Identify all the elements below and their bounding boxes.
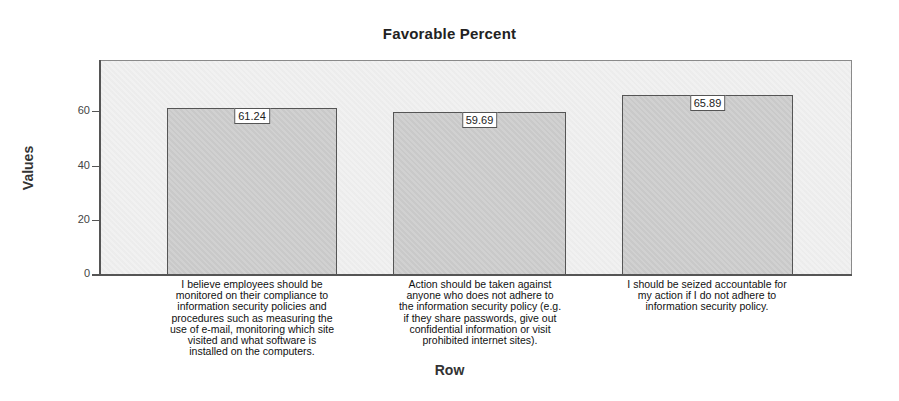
x-axis-label: Row (0, 362, 899, 378)
y-tick-label-60: 60 (50, 104, 90, 116)
chart-title: Favorable Percent (0, 25, 899, 42)
bar-1: 61.24 (167, 108, 337, 275)
bar-value-label-1: 61.24 (234, 108, 270, 124)
y-axis-label: Values (20, 146, 36, 190)
bar-value-label-2: 59.69 (462, 112, 498, 128)
bar-value-label-3: 65.89 (690, 95, 726, 111)
y-tick-label-20: 20 (50, 213, 90, 225)
y-tick-label-40: 40 (50, 159, 90, 171)
bar-2: 59.69 (393, 112, 566, 275)
y-tick-label-0: 0 (50, 267, 90, 279)
category-label-3: I should be seized accountable for my ac… (587, 279, 827, 313)
category-label-2: Action should be taken against anyone wh… (360, 279, 600, 346)
category-label-1: I believe employees should be monitored … (132, 279, 372, 357)
bar-3: 65.89 (622, 95, 793, 275)
y-axis-line (99, 60, 101, 276)
x-axis-line (92, 274, 852, 276)
